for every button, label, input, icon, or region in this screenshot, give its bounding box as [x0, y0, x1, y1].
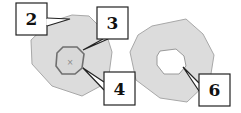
callout-3-label: 3	[107, 13, 119, 33]
callout-4-label: 4	[114, 79, 126, 99]
center-marker-icon: ×	[67, 58, 74, 67]
callout-2-label: 2	[26, 9, 38, 29]
callout-6-label: 6	[209, 80, 221, 100]
figure-canvas: × 2 3 4 6	[0, 0, 241, 113]
